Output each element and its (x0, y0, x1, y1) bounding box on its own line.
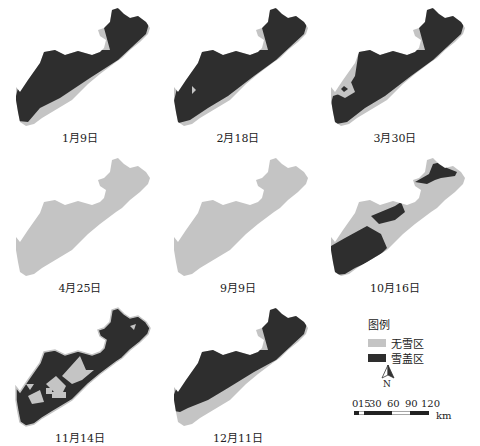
scale-tick: 90 (405, 398, 418, 409)
region-map (315, 150, 475, 280)
panel-date-label: 1月9日 (0, 129, 160, 145)
panel-date-label: 3月30日 (315, 129, 475, 145)
region-map (0, 150, 160, 280)
map-panel-jan9: 1月9日 (0, 0, 160, 148)
region-map (0, 0, 160, 130)
region-map (158, 300, 318, 430)
map-legend: 图例 无雪区 雪盖区 (368, 316, 424, 365)
region-map (0, 300, 160, 430)
map-panel-nov14: 11月14日 (0, 300, 160, 446)
snow-free-swatch (368, 339, 386, 347)
panel-date-label: 12月11日 (158, 429, 318, 445)
map-panel-oct16: 10月16日 (315, 150, 475, 298)
snow-cover-swatch (368, 354, 386, 362)
map-panel-dec11: 12月11日 (158, 300, 318, 446)
panel-date-label: 2月18日 (158, 129, 318, 145)
legend-label: 无雪区 (391, 335, 424, 351)
scale-tick: 30 (369, 398, 382, 409)
scale-bar: 0 15 30 60 90 120 km (352, 398, 472, 428)
region-map (158, 0, 318, 130)
map-panel-sep9: 9月9日 (158, 150, 318, 298)
panel-date-label: 10月16日 (315, 279, 475, 295)
panel-date-label: 4月25日 (0, 279, 160, 295)
panel-date-label: 11月14日 (0, 429, 160, 445)
map-panel-apr25: 4月25日 (0, 150, 160, 298)
map-panel-mar30: 3月30日 (315, 0, 475, 148)
scale-unit: km (436, 410, 452, 421)
scale-bar-graphic (354, 411, 429, 415)
scale-tick: 60 (387, 398, 400, 409)
legend-title: 图例 (368, 316, 424, 332)
panel-date-label: 9月9日 (158, 279, 318, 295)
map-panel-feb18: 2月18日 (158, 0, 318, 148)
region-map (158, 150, 318, 280)
region-map (315, 0, 475, 130)
north-label: N (383, 379, 391, 389)
scale-tick: 120 (421, 398, 440, 409)
legend-item-snow-cover: 雪盖区 (368, 350, 424, 365)
legend-item-snow-free: 无雪区 (368, 335, 424, 350)
